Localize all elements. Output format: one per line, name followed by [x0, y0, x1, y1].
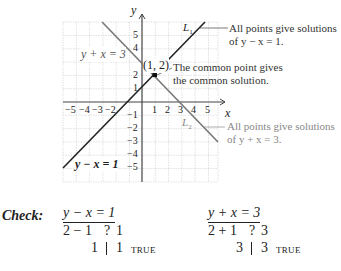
intersection-point [153, 73, 158, 78]
y-tick: 5 [133, 29, 138, 40]
l2-label: L2 [182, 116, 192, 131]
l1-label: L1 [183, 21, 193, 36]
check-right-equation: y + x = 3 [208, 205, 260, 223]
check-right: y + x = 3 2 + 1 ? 3 3 3 TRUE [208, 205, 260, 257]
check-right-q: ? [249, 223, 255, 239]
x-tick: 2 [165, 104, 170, 115]
check-left-verdict: TRUE [131, 245, 156, 255]
check-right-divider [251, 242, 252, 255]
y-tick: 4 [133, 42, 138, 53]
check-left-sub-lhs: 2 − 1 [63, 223, 92, 239]
x-tick: 1 [152, 104, 157, 115]
l2-equation-label: y + x = 3 [81, 47, 126, 62]
check-left-equation: y − x = 1 [63, 205, 115, 223]
annotation-l1-line1: All points give solutions [229, 22, 337, 35]
annotation-l1-line2: of y − x = 1. [229, 35, 337, 48]
x-axis-label: x [225, 106, 230, 121]
x-tick: 4 [191, 104, 196, 115]
check-right-sub-rhs: 3 [261, 223, 268, 239]
y-tick: −4 [127, 148, 138, 159]
y-tick: −5 [127, 161, 138, 172]
x-tick: −2 [105, 104, 116, 115]
check-right-verdict: TRUE [276, 245, 301, 255]
x-tick: 3 [178, 104, 183, 115]
x-tick: −5 [65, 104, 76, 115]
intersection-label: (1, 2) [143, 58, 169, 73]
annotation-l2: All points give solutions of y + x = 3. [227, 120, 335, 146]
annotation-l1: All points give solutions of y − x = 1. [229, 22, 337, 48]
check-left-res-lhs: 1 [91, 240, 98, 256]
annotation-common: The common point gives the common soluti… [173, 61, 283, 87]
l1-equation-label: y − x = 1 [75, 157, 118, 172]
annotation-common-line2: the common solution. [173, 74, 283, 87]
check-left: y − x = 1 2 − 1 ? 1 1 1 TRUE [63, 205, 115, 257]
check-left-sub-rhs: 1 [116, 223, 123, 239]
check-left-q: ? [104, 223, 110, 239]
check-left-res-rhs: 1 [116, 240, 123, 256]
x-tick: −4 [79, 104, 90, 115]
y-axis-label: y [131, 3, 136, 18]
y-tick: −3 [127, 135, 138, 146]
check-right-res-lhs: 3 [236, 240, 243, 256]
annotation-common-line1: The common point gives [173, 61, 283, 74]
check-left-divider [106, 242, 107, 255]
y-tick: −1 [127, 109, 138, 120]
y-tick: −2 [127, 122, 138, 133]
y-tick: 2 [133, 69, 138, 80]
annotation-l2-line1: All points give solutions [227, 120, 335, 133]
annotation-l2-line2: of y + x = 3. [227, 133, 335, 146]
check-label: Check: [2, 208, 43, 224]
check-right-sub-lhs: 2 + 1 [208, 223, 237, 239]
check-right-res-rhs: 3 [261, 240, 268, 256]
x-tick: −3 [92, 104, 103, 115]
x-tick: 5 [205, 104, 210, 115]
y-tick: 1 [133, 82, 138, 93]
